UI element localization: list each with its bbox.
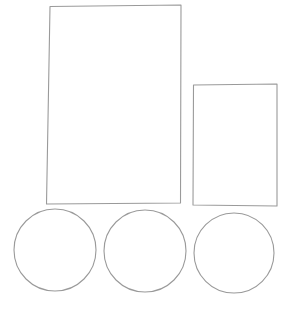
- sketch-drawing-surface: [0, 0, 296, 312]
- canvas-background: [0, 0, 296, 312]
- sketch-canvas: [0, 0, 296, 312]
